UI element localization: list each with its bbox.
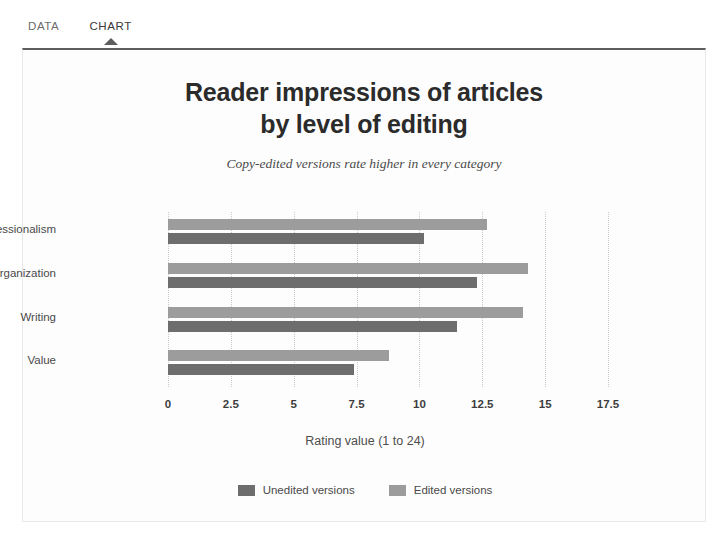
bars-and-grid: ProfessionalismOrganizationWritingValue — [168, 212, 608, 387]
chart-subtitle: Copy-edited versions rate higher in ever… — [23, 156, 705, 172]
x-axis-ticks: 02.557.51012.51517.5 — [168, 398, 608, 414]
x-axis-title: Rating value (1 to 24) — [23, 434, 707, 448]
bar-edited[interactable] — [168, 263, 528, 274]
legend-item[interactable]: Edited versions — [389, 484, 493, 496]
legend-item[interactable]: Unedited versions — [238, 484, 355, 496]
x-axis-tick-label: 0 — [165, 398, 171, 410]
chart-title-line-2: by level of editing — [83, 108, 645, 140]
plot-area: ProfessionalismOrganizationWritingValue … — [23, 202, 707, 524]
y-axis-label: Value — [0, 355, 56, 367]
y-axis-label: Organization — [0, 268, 56, 280]
x-axis-tick-label: 17.5 — [597, 398, 619, 410]
bar-edited[interactable] — [168, 307, 523, 318]
x-axis-tick-label: 15 — [539, 398, 552, 410]
chart-panel: Reader impressions of articles by level … — [22, 48, 706, 522]
tab-chart-label: CHART — [89, 20, 131, 32]
view-tabs: DATA CHART — [22, 18, 706, 48]
legend-label: Edited versions — [414, 484, 493, 496]
chart-title-line-1: Reader impressions of articles — [83, 76, 645, 108]
gridline — [608, 212, 609, 387]
legend-label: Unedited versions — [263, 484, 355, 496]
active-tab-caret-icon — [104, 38, 118, 45]
tab-data-label: DATA — [28, 20, 59, 32]
bar-unedited[interactable] — [168, 321, 457, 332]
legend-swatch — [389, 485, 406, 496]
bar-unedited[interactable] — [168, 277, 477, 288]
y-axis-label: Professionalism — [0, 224, 56, 236]
bar-edited[interactable] — [168, 350, 389, 361]
bar-unedited[interactable] — [168, 233, 424, 244]
bar-group: Professionalism — [168, 212, 608, 256]
tab-chart[interactable]: CHART — [83, 18, 137, 40]
bar-group: Organization — [168, 256, 608, 300]
chart-title: Reader impressions of articles by level … — [83, 76, 645, 140]
chart-legend: Unedited versionsEdited versions — [23, 484, 707, 496]
tab-data[interactable]: DATA — [22, 18, 65, 40]
bar-group: Value — [168, 343, 608, 387]
x-axis-tick-label: 5 — [291, 398, 297, 410]
legend-swatch — [238, 485, 255, 496]
x-axis-tick-label: 2.5 — [223, 398, 239, 410]
bar-edited[interactable] — [168, 219, 487, 230]
x-axis-tick-label: 7.5 — [349, 398, 365, 410]
x-axis-tick-label: 12.5 — [471, 398, 493, 410]
y-axis-label: Writing — [0, 312, 56, 324]
bar-unedited[interactable] — [168, 364, 354, 375]
bar-group: Writing — [168, 300, 608, 344]
x-axis-tick-label: 10 — [413, 398, 426, 410]
